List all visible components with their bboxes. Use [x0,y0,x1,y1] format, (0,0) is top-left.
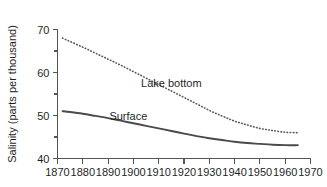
y-tick-label: 40 [37,153,49,165]
x-tick-label: 1870 [45,166,69,178]
salinity-line-chart: 4050607018701880189019001910192019301940… [0,0,327,187]
axis-lines [58,30,311,159]
x-tick-label: 1930 [197,166,221,178]
x-tick-label: 1900 [121,166,145,178]
series-annotation-surface: Surface [109,110,147,122]
x-tick-label: 1960 [273,166,297,178]
chart-canvas: 4050607018701880189019001910192019301940… [0,0,327,187]
y-tick-label: 50 [37,110,49,122]
y-tick-label: 60 [37,67,49,79]
y-tick-label: 70 [37,24,49,36]
series-annotation-lake-bottom: Lake bottom [141,77,202,89]
x-tick-label: 1950 [248,166,272,178]
x-tick-label: 1880 [71,166,95,178]
x-tick-label: 1970 [298,166,322,178]
x-tick-label: 1940 [222,166,246,178]
x-tick-label: 1890 [96,166,120,178]
y-axis-title: Salinity (parts per thousand) [6,25,18,163]
x-tick-label: 1920 [172,166,196,178]
x-tick-label: 1910 [146,166,170,178]
